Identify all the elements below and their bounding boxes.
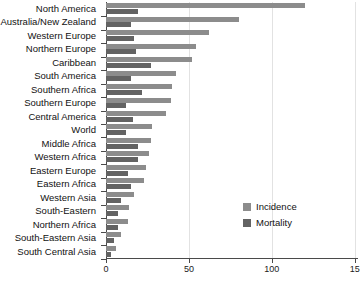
bar-incidence	[106, 246, 116, 251]
category-label: South Central Asia	[0, 245, 96, 259]
category-label: Western Asia	[0, 191, 96, 205]
category-label: Western Europe	[0, 29, 96, 43]
category-label: Middle Africa	[0, 137, 96, 151]
bar-mortality	[106, 157, 138, 162]
bar-incidence	[106, 30, 209, 35]
bar-incidence	[106, 44, 196, 49]
bar-mortality	[106, 225, 118, 230]
bar-incidence	[106, 57, 192, 62]
legend-swatch-mortality	[243, 219, 251, 227]
x-tick-label-0: 0	[103, 264, 108, 274]
category-label: Northern Africa	[0, 218, 96, 232]
bar-mortality	[106, 184, 131, 189]
chart-row: Eastern Europe	[0, 164, 358, 178]
bar-incidence	[106, 17, 239, 22]
bar-incidence	[106, 124, 152, 129]
x-tick-150	[355, 258, 356, 263]
bar-mortality	[106, 238, 114, 243]
y-tick	[101, 259, 106, 260]
bar-mortality	[106, 36, 134, 41]
chart-row: Eastern Africa	[0, 177, 358, 191]
category-label: South-Eastern Asia	[0, 231, 96, 245]
category-label: Southern Europe	[0, 96, 96, 110]
chart-row: Australia/New Zealand	[0, 15, 358, 29]
bar-mortality	[106, 49, 136, 54]
category-label: South America	[0, 69, 96, 83]
category-label: South-Eastern	[0, 204, 96, 218]
chart-row: South Central Asia	[0, 245, 358, 259]
category-label: Eastern Europe	[0, 164, 96, 178]
bar-incidence	[106, 84, 172, 89]
chart-row: Southern Africa	[0, 83, 358, 97]
chart-row: Southern Europe	[0, 96, 358, 110]
bar-incidence	[106, 98, 171, 103]
legend-swatch-incidence	[243, 203, 251, 211]
chart-row: Western Africa	[0, 150, 358, 164]
bar-mortality	[106, 76, 131, 81]
bar-incidence	[106, 71, 176, 76]
chart-row: North America	[0, 2, 358, 16]
bar-mortality	[106, 103, 126, 108]
bar-mortality	[106, 117, 133, 122]
chart-row: South America	[0, 69, 358, 83]
x-tick-100	[272, 258, 273, 263]
category-label: Northern Europe	[0, 42, 96, 56]
category-label: Eastern Africa	[0, 177, 96, 191]
legend-label-mortality: Mortality	[256, 217, 292, 228]
chart-row: South-Eastern	[0, 204, 358, 218]
bar-incidence	[106, 178, 144, 183]
bar-incidence	[106, 219, 128, 224]
legend-item-incidence: Incidence	[243, 200, 297, 213]
legend-item-mortality: Mortality	[243, 216, 297, 229]
x-axis-title	[0, 279, 358, 290]
bar-mortality	[106, 63, 151, 68]
chart-row: Western Asia	[0, 191, 358, 205]
x-tick-label-100: 100	[264, 264, 279, 274]
category-label: North America	[0, 2, 96, 16]
chart-legend: Incidence Mortality	[243, 200, 297, 232]
bar-incidence	[106, 205, 129, 210]
bar-incidence	[106, 111, 166, 116]
x-tick-label-50: 50	[184, 264, 194, 274]
bar-mortality	[106, 252, 111, 257]
x-tick-label-150: 15	[350, 264, 360, 274]
bar-mortality	[106, 144, 138, 149]
bar-mortality	[106, 211, 118, 216]
bar-incidence	[106, 151, 149, 156]
chart-row: Western Europe	[0, 29, 358, 43]
category-label: Southern Africa	[0, 83, 96, 97]
bar-mortality	[106, 22, 131, 27]
chart-row: Central America	[0, 110, 358, 124]
x-tick-50	[189, 258, 190, 263]
chart-row: Middle Africa	[0, 137, 358, 151]
category-label: Central America	[0, 110, 96, 124]
bar-mortality	[106, 130, 126, 135]
category-label: Caribbean	[0, 56, 96, 70]
category-label: Australia/New Zealand	[0, 15, 96, 29]
legend-label-incidence: Incidence	[256, 201, 297, 212]
bar-mortality	[106, 198, 121, 203]
bar-mortality	[106, 90, 142, 95]
x-tick-0	[106, 258, 107, 263]
bar-mortality	[106, 9, 138, 14]
chart-row: Caribbean	[0, 56, 358, 70]
bar-mortality	[106, 171, 128, 176]
category-label: Western Africa	[0, 150, 96, 164]
chart-row: Northern Africa	[0, 218, 358, 232]
bar-incidence	[106, 192, 134, 197]
bar-incidence	[106, 232, 121, 237]
bar-incidence	[106, 165, 146, 170]
chart-row: Northern Europe	[0, 42, 358, 56]
bar-incidence	[106, 138, 151, 143]
chart-row: South-Eastern Asia	[0, 231, 358, 245]
bar-incidence	[106, 3, 305, 8]
category-label: World	[0, 123, 96, 137]
chart-row: World	[0, 123, 358, 137]
